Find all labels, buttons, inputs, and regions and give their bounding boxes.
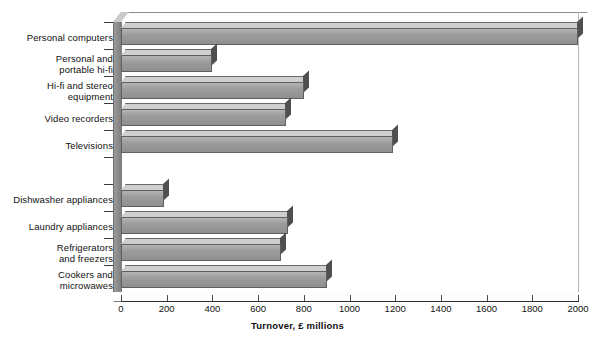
category-tick (104, 49, 113, 50)
x-axis-tick (121, 295, 122, 301)
bar (121, 82, 304, 99)
x-axis-tick (258, 295, 259, 301)
bar (121, 217, 288, 234)
x-axis-tick-label: 1400 (421, 303, 461, 314)
category-label: Personal computers (0, 32, 113, 43)
category-tick (104, 238, 113, 239)
x-axis-tick (487, 295, 488, 301)
x-axis-line (121, 301, 579, 302)
bar-front-face (121, 271, 327, 288)
x-axis-tick-label: 400 (192, 303, 232, 314)
plot-right-edge (578, 12, 579, 292)
bar-front-face (121, 217, 288, 234)
category-tick (104, 211, 113, 212)
x-axis-tick (304, 295, 305, 301)
x-axis-tick (395, 295, 396, 301)
bar (121, 55, 212, 72)
category-tick (104, 22, 113, 23)
x-axis-title: Turnover, £ millions (0, 320, 595, 331)
x-axis-tick-label: 200 (147, 303, 187, 314)
x-axis-tick-label: 1800 (512, 303, 552, 314)
x-axis-tick (212, 295, 213, 301)
category-tick (104, 157, 113, 158)
bar-front-face (121, 55, 212, 72)
bar-front-face (121, 82, 304, 99)
category-tick (104, 103, 113, 104)
bar-chart: Personal computersPersonal andportable h… (0, 0, 595, 351)
bar-front-face (121, 109, 286, 126)
x-axis-tick (167, 295, 168, 301)
x-axis-tick-label: 2000 (558, 303, 595, 314)
category-label: Hi-fi and stereoequipment (0, 80, 113, 102)
bar-series (121, 22, 578, 292)
x-axis-tick-label: 600 (238, 303, 278, 314)
bar-front-face (121, 244, 281, 261)
category-label: Video recorders (0, 113, 113, 124)
category-tick (104, 76, 113, 77)
bar (121, 136, 393, 153)
category-label: Refrigeratorsand freezers (0, 242, 113, 264)
category-label: Dishwasher appliances (0, 194, 113, 205)
category-label: Laundry appliances (0, 221, 113, 232)
bar-front-face (121, 28, 578, 45)
x-axis-tick-label: 1200 (375, 303, 415, 314)
x-axis-tick (350, 295, 351, 301)
bar-front-face (121, 190, 164, 207)
category-label: Personal andportable hi-fi (0, 53, 113, 75)
category-tick (104, 184, 113, 185)
x-axis-tick-label: 1600 (467, 303, 507, 314)
bar-front-face (121, 136, 393, 153)
x-axis-tick-label: 1000 (330, 303, 370, 314)
category-tick (104, 265, 113, 266)
x-axis-tick (441, 295, 442, 301)
x-axis-tick (578, 295, 579, 301)
x-axis-tick-label: 800 (284, 303, 324, 314)
bar (121, 271, 327, 288)
bar (121, 244, 281, 261)
x-axis-tick-label: 0 (101, 303, 141, 314)
x-axis-tick (532, 295, 533, 301)
category-label: Televisions (0, 140, 113, 151)
bar (121, 28, 578, 45)
category-tick (104, 130, 113, 131)
bar (121, 190, 164, 207)
bar (121, 109, 286, 126)
category-axis-labels: Personal computersPersonal andportable h… (0, 0, 113, 292)
category-label: Cookers andmicrowawes (0, 269, 113, 291)
